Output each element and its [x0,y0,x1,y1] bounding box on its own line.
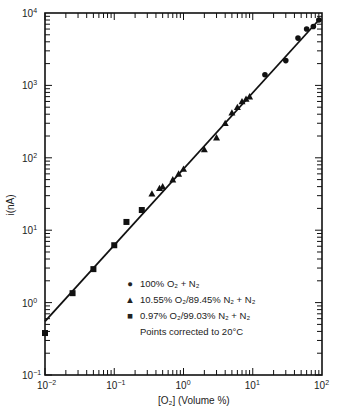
y-axis-label: i(nA) [5,194,16,215]
data-point-circle [311,24,317,30]
circle-marker-icon: ● [124,276,136,292]
chart-canvas: 10−210−110010110210−1100101102103104[O₂]… [0,0,344,411]
data-point-circle [262,72,268,78]
data-point-circle [304,26,310,32]
x-tick-label: 102 [314,379,329,391]
legend-label: 0.97% O₂/99.03% N₂ + N₂ [140,308,250,324]
square-marker-icon: ■ [124,308,136,324]
data-point-circle [316,17,322,23]
x-tick-label: 10−1 [106,379,125,391]
y-tick-label: 100 [22,297,37,309]
data-point-square [70,290,76,296]
data-point-triangle [148,190,155,196]
data-point-square [111,242,117,248]
legend-item-100-o2: ● 100% O₂ + N₂ [124,276,255,292]
legend-item-0-97-o2: ■ 0.97% O₂/99.03% N₂ + N₂ [124,308,255,324]
data-point-square [90,266,96,272]
legend-note: Points corrected to 20°C [140,324,255,340]
y-tick-label: 103 [22,79,37,91]
data-point-square [42,330,48,336]
triangle-marker-icon: ▲ [124,292,136,308]
y-tick-label: 104 [22,7,37,19]
x-tick-label: 10−2 [37,379,56,391]
legend-item-10-55-o2: ▲ 10.55% O₂/89.45% N₂ + N₂ [124,292,255,308]
legend: ● 100% O₂ + N₂ ▲ 10.55% O₂/89.45% N₂ + N… [124,276,255,340]
data-point-circle [283,58,289,64]
data-point-square [123,219,129,225]
legend-label: 10.55% O₂/89.45% N₂ + N₂ [140,292,255,308]
x-tick-label: 100 [176,379,191,391]
x-axis-label: [O₂] (Volume %) [158,395,230,406]
y-tick-label: 101 [22,224,37,236]
x-tick-label: 101 [245,379,260,391]
data-point-square [139,207,145,213]
y-tick-label: 102 [22,152,37,164]
legend-label: 100% O₂ + N₂ [140,276,199,292]
data-point-circle [295,35,301,41]
